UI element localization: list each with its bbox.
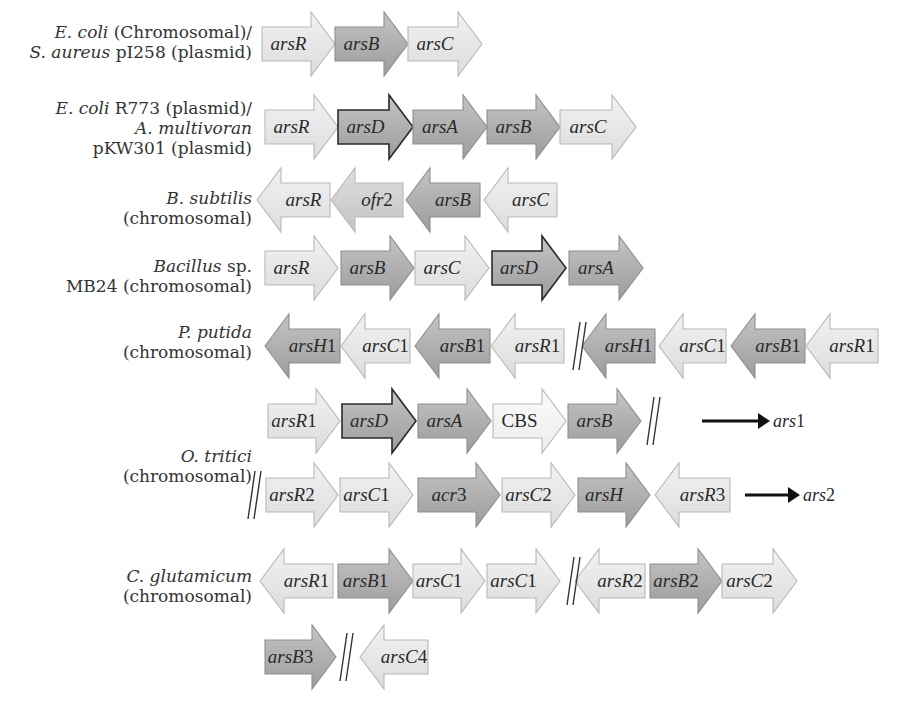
- gene-arrow-arsB1: arsB1: [338, 549, 413, 613]
- gene-label: arsD: [350, 410, 388, 431]
- gene-arrow-arsB: arsB: [341, 236, 414, 300]
- organism-detail: R773 (plasmid)/: [109, 98, 252, 118]
- organism-label-line: E. coli (Chromosomal)/: [29, 22, 252, 42]
- gene-label: arsA: [427, 410, 463, 431]
- gene-label: arsC: [570, 116, 607, 137]
- arrowhead-icon: [758, 413, 770, 429]
- gene-label: arsR3: [680, 484, 725, 505]
- organism-name: Bacillus: [153, 256, 221, 276]
- gene-arrow-arsB1: arsB1: [731, 314, 805, 378]
- gene-label: arsC1: [679, 335, 725, 356]
- gene-arrow-arsC1: arsC1: [413, 549, 485, 613]
- organism-name: A. multivoran: [135, 118, 252, 138]
- gene-arrow-arsD: arsD: [338, 95, 413, 159]
- gene-arrow-arsB: arsB: [568, 389, 641, 453]
- organism-detail: pI258 (plasmid): [110, 42, 252, 62]
- gene-row-ecoli-saureus: arsRarsBarsC: [262, 12, 482, 76]
- gene-row-cglutamicum-2: arsB3arsC4: [265, 625, 428, 689]
- gene-label: arsB2: [653, 570, 698, 591]
- gene-row-otritici-ars2: arsR2arsC1acr3arsC2arsHarsR3ars2: [248, 463, 835, 527]
- organism-label-line: C. glutamicum: [123, 566, 252, 586]
- gene-arrow-arsC: arsC: [415, 236, 489, 300]
- gene-label: arsD: [500, 257, 538, 278]
- gene-arrow-arsC2: arsC2: [502, 463, 575, 527]
- gene-row-bacillus-mb24: arsRarsBarsCarsDarsA: [265, 236, 643, 300]
- gene-label: arsR: [271, 33, 307, 54]
- gene-label: arsH: [585, 484, 624, 505]
- organism-detail: (chromosomal): [123, 466, 252, 486]
- organism-detail: pKW301 (plasmid): [93, 138, 252, 158]
- gene-label: arsA: [578, 257, 614, 278]
- gene-label: arsB: [435, 189, 471, 210]
- gene-arrow-arsD: arsD: [342, 389, 416, 453]
- organism-label-line: A. multivoran: [55, 118, 252, 138]
- gene-arrow-arsA: arsA: [569, 236, 643, 300]
- gene-arrow-arsH1: arsH1: [582, 314, 655, 378]
- gene-label: arsB: [496, 116, 532, 137]
- gene-row-otritici-ars1: arsR1arsDarsACBSarsBars1: [268, 389, 805, 453]
- gene-label: arsH1: [289, 335, 337, 356]
- gene-arrow-CBS: CBS: [493, 389, 566, 453]
- gene-arrow-acr3: acr3: [418, 463, 500, 527]
- gene-arrow-arsH: arsH: [578, 463, 650, 527]
- gene-label: arsC1: [416, 570, 462, 591]
- gene-arrow-arsR2: arsR2: [575, 549, 645, 613]
- gene-label: arsB1: [343, 570, 388, 591]
- gene-arrow-arsR2: arsR2: [266, 463, 338, 527]
- gene-arrow-arsR1: arsR1: [491, 314, 564, 378]
- gene-label: arsC2: [726, 570, 772, 591]
- gene-label: arsC1: [490, 570, 536, 591]
- gene-arrow-arsC: arsC: [408, 12, 482, 76]
- gene-arrow-arsA: arsA: [418, 389, 491, 453]
- gene-label: arsB: [344, 33, 380, 54]
- organism-label-line: B. subtilis: [123, 188, 252, 208]
- gene-arrow-arsC: arsC: [560, 95, 636, 159]
- organism-label-line: Bacillus sp.: [66, 256, 252, 276]
- organism-label-line: S. aureus pI258 (plasmid): [29, 42, 252, 62]
- organism-name: S. aureus: [29, 42, 110, 62]
- gene-label: arsR1: [829, 335, 874, 356]
- gene-label: arsB1: [755, 335, 800, 356]
- organism-detail: (chromosomal): [123, 586, 252, 606]
- gene-row-bsubtilis: arsRofr2arsBarsC: [257, 168, 557, 232]
- gene-arrow-arsR1: arsR1: [268, 389, 340, 453]
- organism-label-line: (chromosomal): [123, 208, 252, 228]
- gene-row-pputida: arsH1arsC1arsB1arsR1arsH1arsC1arsB1arsR1: [265, 314, 878, 378]
- organism-name: E. coli: [54, 22, 108, 42]
- gene-arrow-arsR: arsR: [262, 12, 335, 76]
- gene-label: arsR1: [271, 410, 316, 431]
- gene-arrow-arsR1: arsR1: [806, 314, 878, 378]
- gene-arrow-arsB1: arsB1: [415, 314, 490, 378]
- gene-arrow-arsB: arsB: [487, 95, 560, 159]
- gene-arrow-arsC1: arsC1: [340, 463, 413, 527]
- gene-rows: arsRarsBarsCarsRarsDarsAarsBarsCarsRofr2…: [248, 12, 878, 689]
- gene-arrow-arsB2: arsB2: [650, 549, 722, 613]
- organism-label: E. coli (Chromosomal)/S. aureus pI258 (p…: [29, 22, 252, 62]
- operon-pointer: ars1: [702, 411, 805, 431]
- gene-row-cglutamicum: arsR1arsB1arsC1arsC1arsR2arsB2arsC2: [260, 549, 797, 613]
- organism-label-line: P. putida: [123, 322, 252, 342]
- organism-label: P. putida(chromosomal): [123, 322, 252, 362]
- sequence-break-icon: [647, 397, 660, 445]
- gene-label: arsR1: [284, 570, 329, 591]
- operon-label: ars1: [773, 411, 805, 431]
- gene-label: arsA: [422, 116, 458, 137]
- organism-detail: (chromosomal): [123, 208, 252, 228]
- organism-name: O. tritici: [181, 446, 252, 466]
- gene-label: arsB3: [268, 646, 313, 667]
- organism-name: E. coli: [55, 98, 109, 118]
- sequence-break-icon: [340, 633, 353, 681]
- gene-label: arsR2: [597, 570, 642, 591]
- gene-arrow-ofr2: ofr2: [331, 168, 403, 232]
- gene-label: arsR: [286, 189, 322, 210]
- organism-detail: (chromosomal): [123, 342, 252, 362]
- gene-label: arsR1: [515, 335, 560, 356]
- gene-label: acr3: [432, 484, 467, 505]
- gene-label: arsC4: [381, 646, 428, 667]
- gene-arrow-arsB: arsB: [406, 168, 480, 232]
- organism-detail: MB24 (chromosomal): [66, 276, 252, 296]
- gene-arrow-arsR: arsR: [257, 168, 330, 232]
- gene-arrow-arsR1: arsR1: [260, 549, 333, 613]
- gene-label: arsD: [346, 116, 384, 137]
- gene-arrow-arsC2: arsC2: [722, 549, 797, 613]
